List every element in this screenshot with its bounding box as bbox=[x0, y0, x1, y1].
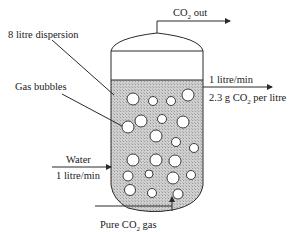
gas-bubble bbox=[167, 172, 179, 184]
co2-out-label: CO2 out bbox=[173, 7, 207, 21]
gas-bubble bbox=[149, 97, 158, 106]
gas-bubble bbox=[125, 185, 136, 196]
gas-bubble bbox=[169, 155, 181, 167]
gas-bubble bbox=[122, 121, 134, 133]
gas-bubble bbox=[173, 189, 183, 199]
gas-bubble bbox=[135, 115, 147, 127]
gas-bubble bbox=[190, 144, 199, 153]
water-label: Water bbox=[66, 154, 91, 165]
dispersion-label: 8 litre dispersion bbox=[8, 29, 79, 40]
gas-bubble bbox=[127, 93, 139, 105]
gas-bubble bbox=[182, 89, 194, 101]
gas-bubble bbox=[172, 138, 181, 147]
gas-bubble bbox=[187, 171, 196, 180]
gas-bubble bbox=[158, 115, 167, 124]
gas-bubbles-label: Gas bubbles bbox=[15, 81, 67, 92]
water-flow-label: 1 litre/min bbox=[56, 170, 101, 181]
co2-absorber-diagram: CO2 out 1 litre/min 2.3 g CO2 per litre … bbox=[0, 0, 300, 232]
vessel-dome bbox=[111, 33, 203, 51]
gas-bubble bbox=[167, 97, 176, 106]
outlet-flow-label: 1 litre/min bbox=[209, 74, 254, 85]
gas-bubble bbox=[127, 154, 139, 166]
gas-bubble bbox=[150, 154, 162, 166]
gas-bubble bbox=[150, 130, 162, 142]
co2-gas-label: Pure CO2 gas bbox=[100, 219, 157, 232]
gas-bubble bbox=[177, 116, 189, 128]
outlet-concentration-label: 2.3 g CO2 per litre bbox=[209, 92, 287, 106]
gas-bubble bbox=[148, 189, 157, 198]
gas-bubble bbox=[123, 171, 133, 181]
co2-out-pipe bbox=[157, 21, 230, 33]
gas-bubble bbox=[145, 170, 153, 178]
